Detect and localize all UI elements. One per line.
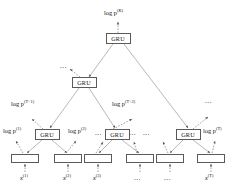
figure-canvas: GRU GRU GRU GRU GRU log p(K) ... log p(T… bbox=[0, 0, 237, 189]
gru-node-level3-0[interactable]: GRU bbox=[35, 129, 60, 140]
ellipsis-input-4: ... bbox=[164, 174, 171, 182]
ellipsis-leaf-output-4: ... bbox=[143, 129, 150, 137]
gru-node-level2-0[interactable]: GRU bbox=[72, 77, 97, 88]
gru-node-label: GRU bbox=[110, 131, 124, 138]
gru-node-level3-2[interactable]: GRU bbox=[176, 129, 201, 140]
output-label-sup: (T+2) bbox=[125, 99, 135, 104]
output-label-sup: (2) bbox=[81, 126, 86, 131]
input-label-0: x(1) bbox=[20, 173, 28, 181]
output-label-base: log p bbox=[3, 127, 16, 134]
input-label-2: x(3) bbox=[93, 173, 101, 181]
output-label-level3-0: log p(T+1) bbox=[11, 99, 34, 107]
input-label-1: x(2) bbox=[63, 173, 71, 181]
output-label-leaf-5: log p(T) bbox=[203, 126, 222, 134]
ellipsis-input-3: ... bbox=[134, 174, 141, 182]
input-label-sup: (1) bbox=[23, 173, 28, 178]
output-label-leaf-0: log p(1) bbox=[3, 126, 21, 134]
output-label-base: log p bbox=[11, 100, 24, 107]
output-label-root: log p(K) bbox=[104, 8, 123, 16]
output-label-base: log p bbox=[104, 9, 117, 16]
gru-node-label: GRU bbox=[111, 35, 125, 42]
leaf-node-2[interactable] bbox=[84, 154, 112, 163]
output-label-base: log p bbox=[203, 127, 216, 134]
output-label-leaf-1: log p(2) bbox=[68, 126, 86, 134]
output-label-base: log p bbox=[112, 100, 125, 107]
leaf-node-0[interactable] bbox=[11, 154, 39, 163]
leaf-node-4[interactable] bbox=[156, 154, 184, 163]
output-label-base: log p bbox=[68, 127, 81, 134]
gru-node-label: GRU bbox=[40, 131, 54, 138]
output-label-sup: (T+1) bbox=[24, 99, 34, 104]
leaf-node-1[interactable] bbox=[54, 154, 82, 163]
gru-node-label: GRU bbox=[181, 131, 195, 138]
gru-node-label: GRU bbox=[77, 79, 91, 86]
ellipsis-leaf-output-3: ... bbox=[129, 129, 136, 137]
gru-node-root[interactable]: GRU bbox=[106, 33, 131, 44]
input-label-sup: (3) bbox=[96, 173, 101, 178]
output-label-sup: (T) bbox=[216, 126, 222, 131]
input-label-sup: (2) bbox=[66, 173, 71, 178]
input-label-sup: (T) bbox=[208, 173, 214, 178]
output-label-level3-1: log p(T+2) bbox=[112, 99, 135, 107]
ellipsis-level3-output-2: ... bbox=[205, 97, 212, 105]
input-label-5: x(T) bbox=[205, 173, 213, 181]
output-label-sup: (1) bbox=[16, 126, 21, 131]
leaf-node-5[interactable] bbox=[197, 154, 225, 163]
gru-node-level3-1[interactable]: GRU bbox=[105, 129, 130, 140]
output-label-sup: (K) bbox=[117, 8, 123, 13]
ellipsis-leaf-output-2: ... bbox=[95, 129, 102, 137]
leaf-node-3[interactable] bbox=[126, 154, 154, 163]
ellipsis-level2-output: ... bbox=[60, 62, 67, 70]
